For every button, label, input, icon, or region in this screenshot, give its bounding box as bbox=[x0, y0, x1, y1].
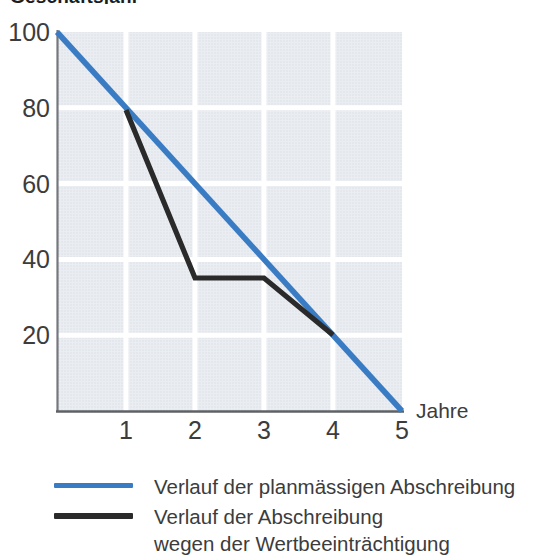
chart-figure: 100 80 60 40 20 1 2 3 4 5 Jahre bbox=[0, 0, 533, 465]
legend-label-planned: Verlauf der planmässigen Abschreibung bbox=[154, 473, 515, 500]
x-tick-3: 3 bbox=[244, 418, 284, 443]
legend-item-planned: Verlauf der planmässigen Abschreibung bbox=[54, 473, 515, 500]
x-tick-2: 2 bbox=[175, 418, 215, 443]
x-tick-4: 4 bbox=[313, 418, 353, 443]
legend-swatch-black-icon bbox=[54, 513, 133, 519]
legend-item-impairment: Verlauf der Abschreibung wegen der Wertb… bbox=[54, 503, 450, 557]
legend-swatch-blue-icon bbox=[54, 483, 133, 488]
chart-legend: Verlauf der planmässigen Abschreibung Ve… bbox=[0, 465, 533, 560]
x-axis-ticks: 1 2 3 4 5 bbox=[0, 0, 533, 465]
x-tick-1: 1 bbox=[106, 418, 146, 443]
legend-label-impairment: Verlauf der Abschreibung wegen der Wertb… bbox=[154, 503, 450, 557]
x-axis-title: Jahre bbox=[416, 400, 469, 421]
